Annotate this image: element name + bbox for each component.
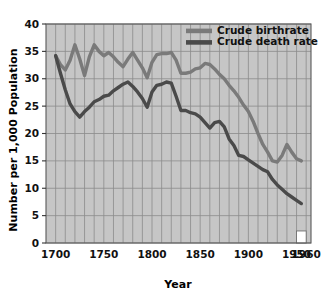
axis-break-notch [297, 231, 307, 243]
y-axis-title: Number per 1,000 Population [7, 48, 20, 231]
x-axis-tick-label: 1850 [186, 248, 215, 260]
legend-label: Crude birthrate [217, 24, 309, 36]
y-axis-tick-label: 0 [32, 237, 39, 249]
y-axis-tick-label: 5 [32, 209, 39, 221]
legend-label: Crude death rate [217, 35, 318, 47]
y-axis-tick-label: 40 [24, 18, 39, 30]
x-axis-tick-label: 1800 [137, 248, 166, 260]
chart-figure: 0510152025303540 17001750180018501900195… [0, 0, 325, 297]
y-axis-tick-label: 15 [24, 154, 39, 166]
x-axis-title: Year [163, 278, 192, 291]
y-axis-tick-label: 25 [24, 100, 39, 112]
axis-break-notch [297, 231, 307, 243]
x-axis-tick-label: 1960 [292, 248, 321, 260]
chart-canvas: 0510152025303540 17001750180018501900195… [0, 0, 325, 297]
legend-swatch [186, 29, 212, 34]
x-axis-tick-label: 1900 [234, 248, 263, 260]
x-axis-tick-label: 1700 [41, 248, 70, 260]
legend-swatch [186, 40, 212, 45]
y-axis-tick-label: 10 [24, 182, 39, 194]
y-axis-tick-label: 20 [24, 127, 39, 139]
y-axis-tick-label: 35 [24, 45, 39, 57]
y-axis-tick-label: 30 [24, 72, 39, 84]
x-axis-tick-label: 1750 [89, 248, 118, 260]
